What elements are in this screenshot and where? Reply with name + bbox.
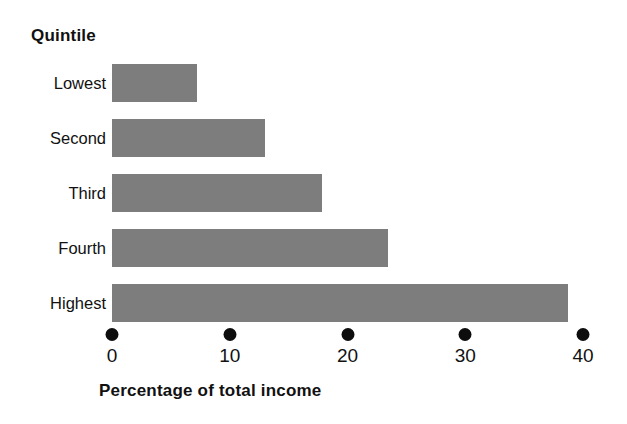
bar-row: Fourth (0, 229, 627, 267)
bar-third (112, 174, 322, 212)
x-tick-label-20: 20 (337, 345, 358, 367)
category-label-fourth: Fourth (58, 229, 106, 267)
x-tick-dot-0 (106, 328, 119, 341)
x-tick-dot-30 (459, 328, 472, 341)
bar-row: Lowest (0, 64, 627, 102)
bar-row: Highest (0, 284, 627, 322)
x-tick-label-10: 10 (219, 345, 240, 367)
x-tick-dot-20 (341, 328, 354, 341)
category-label-second: Second (50, 119, 106, 157)
bar-lowest (112, 64, 197, 102)
bar-row: Second (0, 119, 627, 157)
bar-row: Third (0, 174, 627, 212)
x-tick-label-30: 30 (455, 345, 476, 367)
category-label-lowest: Lowest (54, 64, 106, 102)
plot-area: LowestSecondThirdFourthHighest010203040 (0, 0, 627, 424)
bar-second (112, 119, 265, 157)
x-tick-label-40: 40 (572, 345, 593, 367)
bar-fourth (112, 229, 388, 267)
x-tick-label-0: 0 (107, 345, 118, 367)
x-tick-dot-10 (223, 328, 236, 341)
x-tick-dot-40 (577, 328, 590, 341)
x-axis-title: Percentage of total income (99, 381, 321, 401)
bar-highest (112, 284, 568, 322)
bar-chart: Quintile LowestSecondThirdFourthHighest0… (0, 0, 627, 424)
category-label-third: Third (68, 174, 106, 212)
category-label-highest: Highest (50, 284, 106, 322)
